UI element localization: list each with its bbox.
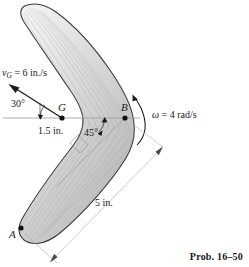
omega-symbol: ω [152, 109, 159, 120]
velocity-value: 6 [23, 67, 28, 78]
angle-30-label: 30° [11, 99, 25, 109]
point-marker-G [59, 115, 64, 120]
angular-velocity-label: ω = 4 rad/s [152, 110, 197, 120]
point-label-G: G [58, 102, 66, 113]
point-label-A: A [9, 229, 16, 240]
omega-units: rad/s [177, 109, 196, 120]
velocity-label: vG = 6 in./s [2, 68, 47, 80]
velocity-equals: = [14, 67, 20, 78]
problem-caption: Prob. 16–50 [190, 251, 243, 262]
problem-figure: vG = 6 in./s 30° G B A 1.5 in. 45° 5 in.… [0, 0, 249, 267]
point-label-B: B [121, 102, 128, 113]
angle-45-label: 45° [84, 128, 98, 138]
point-marker-B [122, 115, 127, 120]
omega-value: 4 [170, 109, 175, 120]
dimension-label-1-5in: 1.5 in. [38, 126, 63, 136]
angular-velocity-arrow-group [133, 95, 146, 146]
angle-30-arrowhead [38, 114, 43, 120]
omega-equals: = [162, 109, 168, 120]
velocity-arrowhead [9, 84, 20, 93]
velocity-subscript: G [6, 71, 11, 80]
dimension-label-5in: 5 in. [95, 198, 113, 208]
point-marker-A [18, 225, 23, 230]
omega-arc [135, 98, 146, 146]
velocity-units: in./s [30, 67, 47, 78]
dim5-arrowhead-upper [156, 147, 164, 156]
